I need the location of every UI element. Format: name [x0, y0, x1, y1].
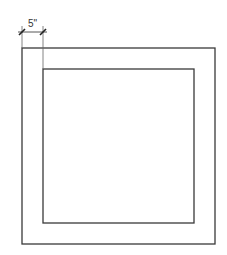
- inner-opening: [43, 69, 194, 223]
- frame-drawing: 5": [0, 0, 227, 255]
- outer-frame: [22, 48, 215, 244]
- dimension-label: 5": [28, 18, 38, 29]
